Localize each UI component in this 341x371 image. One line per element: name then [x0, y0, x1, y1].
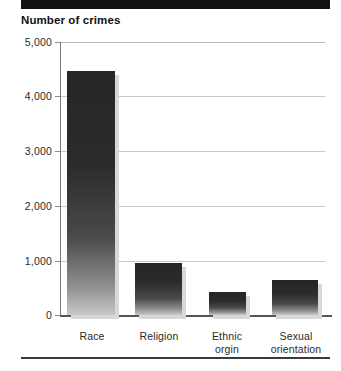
ytick-label-4000: 4,000 — [25, 90, 52, 102]
gridline-5000 — [60, 42, 325, 43]
xtick-label-sexual-orientation: Sexual orientation — [262, 330, 330, 356]
bar-religion — [135, 263, 182, 315]
bar-race — [67, 71, 115, 315]
bar-ethnic-orgin — [209, 292, 246, 315]
y-axis-line — [60, 42, 61, 316]
ytick-label-0: 0 — [46, 309, 52, 321]
xtick-label-ethnic-orgin: Ethnic orgin — [198, 330, 256, 356]
bar-chart-plot-area: 5,000 4,000 3,000 2,000 1,000 0 Race Rel… — [0, 0, 341, 371]
xtick-label-race: Race — [67, 330, 117, 343]
ytick-label-3000: 3,000 — [25, 145, 52, 157]
xtick-label-religion: Religion — [131, 330, 187, 343]
ytick-label-1000: 1,000 — [25, 255, 52, 267]
ytick-label-5000: 5,000 — [25, 36, 52, 48]
bar-sexual-orientation — [272, 280, 318, 315]
decorative-bottom-rule — [21, 357, 330, 359]
ytick-label-2000: 2,000 — [25, 200, 52, 212]
